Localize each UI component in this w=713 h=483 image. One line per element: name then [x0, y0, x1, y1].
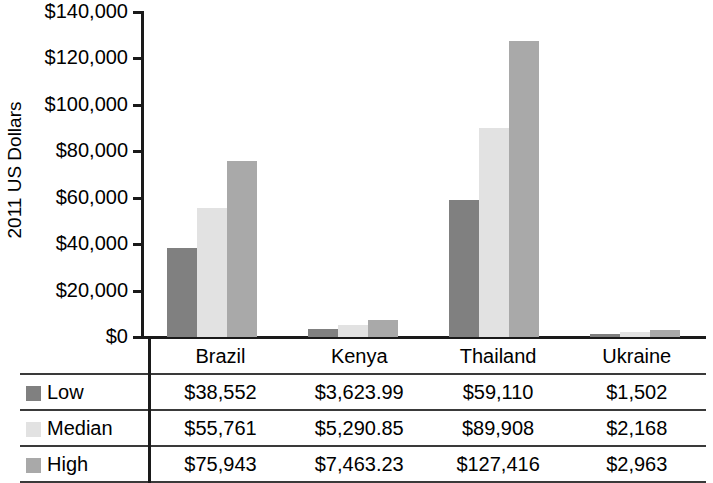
table-header-row: BrazilKenyaThailandUkraine: [20, 339, 706, 374]
legend-item-low: Low: [20, 374, 150, 410]
table-cell: $55,761: [150, 410, 290, 446]
table-row: High$75,943$7,463.23$127,416$2,963: [20, 446, 706, 482]
bar-thailand-high: [509, 41, 539, 337]
table-header-blank: [20, 339, 150, 374]
table-cell: $75,943: [150, 446, 290, 482]
bar-ukraine-high: [650, 330, 680, 337]
bar-brazil-low: [167, 248, 197, 337]
y-axis-title-text: 2011 US Dollars: [4, 102, 26, 239]
table-cell: $1,502: [567, 374, 706, 410]
table-cell: $38,552: [150, 374, 290, 410]
legend-label: High: [47, 453, 88, 475]
table-cell: $5,290.85: [290, 410, 429, 446]
y-axis-tick-label: $60,000: [8, 187, 128, 207]
table-body: Low$38,552$3,623.99$59,110$1,502Median$5…: [20, 374, 706, 482]
legend-item-median: Median: [20, 410, 150, 446]
legend-label: Median: [47, 417, 113, 439]
table-column-header-brazil: Brazil: [150, 339, 290, 374]
bar-kenya-high: [368, 320, 398, 337]
y-axis-tick-label: $20,000: [8, 280, 128, 300]
legend-item-high: High: [20, 446, 150, 482]
bar-thailand-median: [479, 128, 509, 337]
bar-thailand-low: [449, 200, 479, 337]
legend-swatch-icon: [26, 386, 41, 401]
plot-area: [141, 12, 706, 337]
table-cell: $2,168: [567, 410, 706, 446]
y-axis-tick-label: $80,000: [8, 140, 128, 160]
bar-kenya-median: [338, 325, 368, 337]
bar-brazil-median: [197, 208, 227, 337]
table-column-header-kenya: Kenya: [290, 339, 429, 374]
table-cell: $59,110: [429, 374, 568, 410]
bar-ukraine-low: [590, 334, 620, 337]
y-axis-tick-label: $100,000: [8, 94, 128, 114]
legend-swatch-icon: [26, 422, 41, 437]
table-cell: $7,463.23: [290, 446, 429, 482]
table-cell: $127,416: [429, 446, 568, 482]
table-column-header-thailand: Thailand: [429, 339, 568, 374]
bar-ukraine-median: [620, 332, 650, 337]
table-cell: $3,623.99: [290, 374, 429, 410]
y-axis-tick-label: $40,000: [8, 233, 128, 253]
table-column-header-ukraine: Ukraine: [567, 339, 706, 374]
y-axis-tick-label: $120,000: [8, 47, 128, 67]
legend-label: Low: [47, 381, 84, 403]
table-cell: $89,908: [429, 410, 568, 446]
table-row: Median$55,761$5,290.85$89,908$2,168: [20, 410, 706, 446]
table-row: Low$38,552$3,623.99$59,110$1,502: [20, 374, 706, 410]
bar-brazil-high: [227, 161, 257, 337]
bar-kenya-low: [308, 329, 338, 337]
y-axis-tick-label: $140,000: [8, 1, 128, 21]
data-table: BrazilKenyaThailandUkraine Low$38,552$3,…: [20, 339, 706, 483]
table-cell: $2,963: [567, 446, 706, 482]
legend-swatch-icon: [26, 458, 41, 473]
